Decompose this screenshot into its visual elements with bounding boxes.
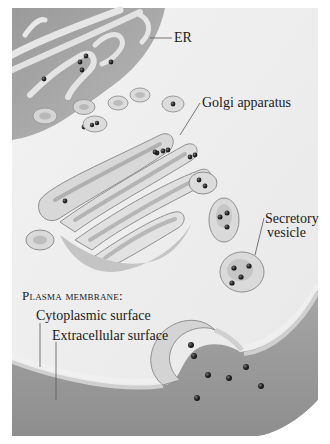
cytoplasmic-surface-label: Cytoplasmic surface <box>36 308 151 323</box>
plasma-membrane-heading: Plasma membrane: <box>22 288 123 303</box>
secretory-vesicle-label-line2: vesicle <box>267 225 306 240</box>
secretory-vesicle-label-line1: Secretory <box>265 211 319 226</box>
er-label: ER <box>174 30 192 45</box>
secretory-pathway-figure: ER Golgi apparatus Secretory vesicle Pla… <box>0 0 330 444</box>
golgi-label: Golgi apparatus <box>202 95 291 110</box>
extracellular-surface-label: Extracellular surface <box>52 328 168 343</box>
